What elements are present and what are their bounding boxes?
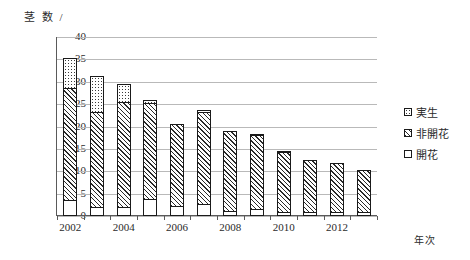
bar-2011[interactable] — [303, 160, 317, 216]
legend-item-実生[interactable]: 実生 — [404, 101, 449, 122]
tickmark-7 — [244, 216, 245, 220]
gridline-15 — [57, 149, 377, 150]
tickmark-end — [377, 216, 378, 220]
tickmark-3 — [137, 216, 138, 220]
x-tick-label-2010: 2010 — [261, 221, 307, 233]
chart-container: 茎 数 / 年次 0510152025303540 20022004200620… — [0, 0, 470, 260]
y-axis-line — [56, 37, 57, 216]
bar-segment-開花-2012 — [330, 212, 344, 216]
bar-segment-開花-2005 — [143, 199, 157, 216]
bar-segment-開花-2008 — [223, 211, 237, 216]
bar-2002[interactable] — [63, 58, 77, 216]
gridline-40 — [57, 37, 377, 38]
bar-2006[interactable] — [170, 124, 184, 216]
x-tick-label-2004: 2004 — [101, 221, 147, 233]
bar-segment-開花-2011 — [303, 212, 317, 216]
x-tick-label-2008: 2008 — [207, 221, 253, 233]
bar-2009[interactable] — [250, 134, 264, 216]
bar-segment-実生-2002 — [63, 58, 77, 88]
bar-2003[interactable] — [90, 76, 104, 216]
gridline-30 — [57, 82, 377, 83]
bar-segment-非開花-2011 — [303, 160, 317, 211]
tickmark-8 — [270, 216, 271, 220]
bar-2008[interactable] — [223, 131, 237, 216]
legend-label: 実生 — [416, 104, 438, 120]
tickmark-5 — [190, 216, 191, 220]
tickmark-11 — [350, 216, 351, 220]
bar-segment-開花-2007 — [197, 204, 211, 216]
bar-2007[interactable] — [197, 110, 211, 216]
bar-2013[interactable] — [357, 170, 371, 216]
tickmark-2 — [110, 216, 111, 220]
legend-item-非開花[interactable]: 非開花 — [404, 122, 449, 143]
bar-segment-非開花-2010 — [277, 152, 291, 212]
bar-segment-非開花-2004 — [117, 102, 131, 207]
legend-label: 非開花 — [416, 125, 449, 141]
x-axis-title: 年次 — [414, 232, 436, 247]
bar-2004[interactable] — [117, 84, 131, 216]
bar-segment-開花-2010 — [277, 212, 291, 216]
legend-swatch-icon-非開花 — [404, 129, 412, 137]
tickmark-10 — [324, 216, 325, 220]
bar-segment-開花-2013 — [357, 212, 371, 216]
gridline-20 — [57, 127, 377, 128]
legend-item-開花[interactable]: 開花 — [404, 143, 449, 164]
tickmark-6 — [217, 216, 218, 220]
bar-2012[interactable] — [330, 163, 344, 216]
bar-segment-実生-2004 — [117, 84, 131, 101]
bar-segment-開花-2002 — [63, 200, 77, 216]
bar-segment-開花-2006 — [170, 206, 184, 216]
bar-2005[interactable] — [143, 100, 157, 216]
gridline-5 — [57, 194, 377, 195]
bar-segment-非開花-2006 — [170, 124, 184, 206]
bar-segment-非開花-2007 — [197, 112, 211, 204]
tickmark-9 — [297, 216, 298, 220]
bar-segment-非開花-2003 — [90, 112, 104, 207]
bar-segment-開花-2003 — [90, 207, 104, 216]
gridline-25 — [57, 104, 377, 105]
x-tick-label-2002: 2002 — [47, 221, 93, 233]
bar-segment-実生-2003 — [90, 76, 104, 112]
x-tick-label-2006: 2006 — [154, 221, 200, 233]
bar-segment-開花-2009 — [250, 209, 264, 216]
bar-segment-非開花-2012 — [330, 163, 344, 211]
tickmark-0 — [57, 216, 58, 220]
bar-segment-非開花-2009 — [250, 135, 264, 209]
bar-segment-開花-2004 — [117, 207, 131, 216]
legend: 実生非開花開花 — [404, 101, 449, 164]
legend-swatch-icon-開花 — [404, 150, 412, 158]
tickmark-1 — [84, 216, 85, 220]
legend-swatch-icon-実生 — [404, 108, 412, 116]
bar-segment-非開花-2002 — [63, 88, 77, 201]
bar-segment-非開花-2008 — [223, 131, 237, 211]
bar-segment-非開花-2005 — [143, 103, 157, 199]
bar-segment-非開花-2013 — [357, 170, 371, 211]
bar-2010[interactable] — [277, 151, 291, 216]
tickmark-4 — [164, 216, 165, 220]
y-axis-title: 茎 数 / — [24, 8, 65, 24]
legend-label: 開花 — [416, 146, 438, 162]
x-tick-label-2012: 2012 — [314, 221, 360, 233]
gridline-10 — [57, 171, 377, 172]
plot-area — [57, 37, 377, 216]
gridline-35 — [57, 59, 377, 60]
